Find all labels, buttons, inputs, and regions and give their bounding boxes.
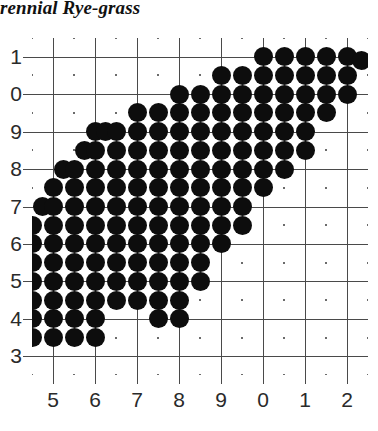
data-point xyxy=(212,103,231,122)
data-point xyxy=(212,178,231,197)
y-axis-tick xyxy=(23,94,32,95)
data-point xyxy=(170,85,189,104)
x-axis-tick xyxy=(221,375,222,384)
data-point xyxy=(233,141,252,160)
y-axis-label: 8 xyxy=(10,157,22,181)
data-point xyxy=(32,291,42,310)
data-point xyxy=(338,66,357,85)
data-point xyxy=(275,47,294,66)
data-point xyxy=(149,178,168,197)
data-point xyxy=(275,160,294,179)
data-point xyxy=(170,309,189,328)
data-point xyxy=(170,141,189,160)
data-point xyxy=(254,160,273,179)
x-axis-label: 8 xyxy=(173,388,185,412)
x-axis-tick xyxy=(305,375,306,384)
data-point xyxy=(128,122,147,141)
data-point xyxy=(149,103,168,122)
data-point xyxy=(86,141,105,160)
data-point xyxy=(191,178,210,197)
data-point xyxy=(128,234,147,253)
data-point xyxy=(107,160,126,179)
y-axis-tick xyxy=(23,356,32,357)
data-point xyxy=(191,141,210,160)
data-point xyxy=(32,216,42,235)
data-point xyxy=(149,141,168,160)
x-axis-label: 1 xyxy=(299,388,311,412)
data-point xyxy=(107,178,126,197)
x-axis-tick xyxy=(95,375,96,384)
data-point xyxy=(128,253,147,272)
data-point xyxy=(44,216,63,235)
data-point xyxy=(212,160,231,179)
data-point xyxy=(352,51,368,70)
data-point xyxy=(44,253,63,272)
x-axis-tick xyxy=(347,375,348,384)
figure-title: rennial Rye-grass xyxy=(0,0,140,19)
data-point xyxy=(32,272,42,291)
data-point xyxy=(296,47,315,66)
data-point xyxy=(86,178,105,197)
y-axis-label: 7 xyxy=(10,195,22,219)
data-point xyxy=(65,160,84,179)
data-point xyxy=(65,291,84,310)
data-point xyxy=(275,66,294,85)
data-point xyxy=(233,103,252,122)
y-axis-tick xyxy=(23,57,32,58)
y-axis-label: 0 xyxy=(10,82,22,106)
scatter-figure: rennial Rye-grass 56789012109876543 xyxy=(0,0,378,431)
data-point xyxy=(107,253,126,272)
y-axis-tick xyxy=(23,132,32,133)
data-point xyxy=(275,141,294,160)
data-point xyxy=(107,234,126,253)
data-point xyxy=(128,178,147,197)
data-point xyxy=(170,122,189,141)
data-point xyxy=(191,216,210,235)
data-point xyxy=(86,291,105,310)
data-point xyxy=(275,103,294,122)
data-point xyxy=(212,66,231,85)
data-point xyxy=(275,85,294,104)
data-point xyxy=(296,66,315,85)
data-point xyxy=(170,160,189,179)
data-point xyxy=(149,234,168,253)
data-point xyxy=(170,103,189,122)
data-point xyxy=(128,103,147,122)
data-point xyxy=(254,47,273,66)
data-point xyxy=(149,160,168,179)
data-point xyxy=(212,122,231,141)
y-axis-tick xyxy=(23,244,32,245)
data-point xyxy=(65,216,84,235)
data-point xyxy=(128,216,147,235)
data-point xyxy=(191,197,210,216)
data-point xyxy=(149,253,168,272)
data-point xyxy=(296,85,315,104)
data-point xyxy=(86,160,105,179)
data-point xyxy=(254,103,273,122)
y-axis-tick xyxy=(23,319,32,320)
y-axis-label: 1 xyxy=(10,45,22,69)
data-point xyxy=(233,178,252,197)
data-point xyxy=(44,309,63,328)
data-point xyxy=(65,272,84,291)
data-point xyxy=(32,328,42,347)
data-point xyxy=(44,234,63,253)
data-point xyxy=(191,103,210,122)
data-point xyxy=(191,234,210,253)
x-axis-label: 5 xyxy=(47,388,59,412)
data-point xyxy=(149,309,168,328)
data-point xyxy=(128,160,147,179)
y-axis-tick xyxy=(23,169,32,170)
data-point xyxy=(65,328,84,347)
data-point xyxy=(170,197,189,216)
data-point xyxy=(65,253,84,272)
data-point xyxy=(149,272,168,291)
data-point xyxy=(107,122,126,141)
data-point xyxy=(233,122,252,141)
data-point xyxy=(296,141,315,160)
x-axis-tick xyxy=(137,375,138,384)
data-point xyxy=(107,272,126,291)
data-point xyxy=(191,85,210,104)
data-point xyxy=(233,160,252,179)
y-axis-tick xyxy=(23,207,32,208)
